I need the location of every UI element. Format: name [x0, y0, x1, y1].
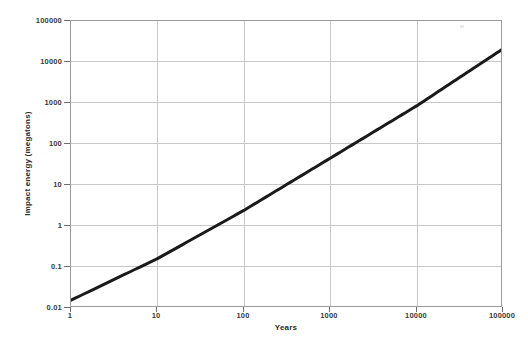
- scan-artifact: [460, 25, 464, 28]
- x-axis-title: Years: [70, 323, 502, 332]
- data-series-line: [71, 21, 502, 307]
- x-tick-label-10: 10: [152, 311, 161, 320]
- x-tick-label-100: 100: [236, 311, 249, 320]
- y-tick-label-100000: 100000: [36, 16, 62, 25]
- x-tick-label-100000: 100000: [489, 311, 515, 320]
- plot-area: [70, 20, 502, 307]
- x-tick-label-10000: 10000: [405, 311, 427, 320]
- x-tick-label-1: 1: [68, 311, 72, 320]
- x-tick-label-1000: 1000: [320, 311, 338, 320]
- y-tick-label-100: 100: [49, 139, 62, 148]
- y-tick-label-10000: 10000: [40, 57, 62, 66]
- y-tick-label-0.1: 0.1: [51, 262, 62, 271]
- y-tick-label-1: 1: [58, 221, 62, 230]
- chart-figure: Impact energy (megatons) 100000 10000 10…: [0, 0, 528, 345]
- y-tick-label-10: 10: [53, 180, 62, 189]
- y-tick-label-1000: 1000: [45, 98, 63, 107]
- y-axis-title: Impact energy (megatons): [21, 20, 35, 307]
- y-tick-label-0.01: 0.01: [47, 303, 62, 312]
